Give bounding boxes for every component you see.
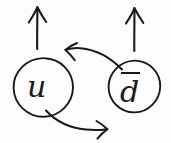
upward-arrow-right-head-left bbox=[126, 8, 135, 23]
upward-arrow-left-head-right bbox=[37, 7, 46, 22]
sketch-canvas bbox=[0, 0, 171, 143]
curved-arrow-right-to-left bbox=[65, 43, 122, 70]
quark-u-label: u bbox=[27, 72, 46, 102]
upward-arrow-right bbox=[126, 8, 143, 51]
overbar-icon bbox=[121, 72, 140, 74]
curved-arrow-right-to-left-head-lower bbox=[65, 50, 74, 60]
antiquark-d-label: d bbox=[120, 70, 139, 107]
upward-arrow-left bbox=[29, 7, 46, 49]
upward-arrow-right-head-right bbox=[135, 8, 144, 23]
curved-arrow-left-to-right-head-upper bbox=[97, 121, 108, 129]
particle-interaction-diagram: u d bbox=[0, 0, 171, 143]
upward-arrow-left-head-left bbox=[29, 7, 38, 22]
antiquark-d-label-text: d bbox=[120, 77, 139, 107]
